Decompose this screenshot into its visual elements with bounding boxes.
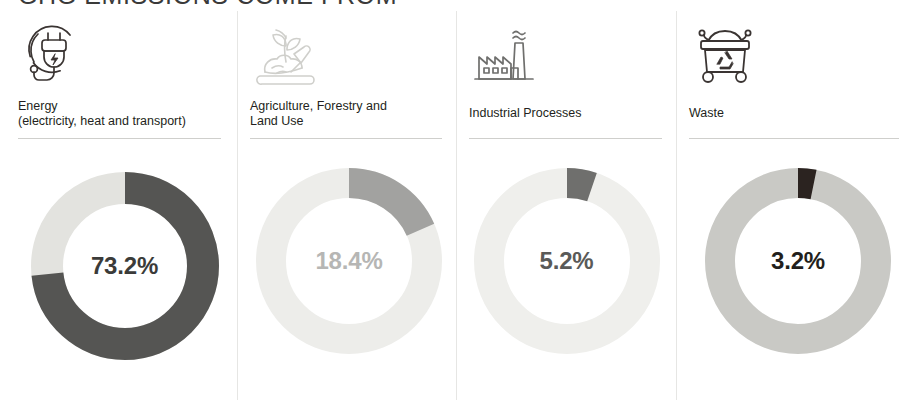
label-line-1: Agriculture, Forestry and [250, 99, 446, 114]
column-divider [250, 138, 442, 139]
emissions-column-agriculture: Agriculture, Forestry and Land Use 18.4% [237, 11, 456, 400]
label-line-2: Land Use [250, 114, 446, 129]
donut-chart-industrial: 5.2% [457, 163, 676, 359]
emissions-column-waste: Waste 3.2% [676, 11, 911, 400]
seedling-trowel-icon [250, 24, 322, 90]
emissions-column-group: Energy (electricity, heat and transport)… [0, 11, 911, 400]
emissions-column-label: Industrial Processes [469, 106, 666, 121]
donut-value-label: 73.2% [27, 168, 223, 364]
section-heading: GHG EMISSIONS COME FROM [0, 0, 911, 11]
emissions-column-label: Waste [689, 106, 901, 121]
donut-value-label: 5.2% [469, 163, 665, 359]
column-divider [18, 138, 221, 139]
emissions-column-industrial: Industrial Processes 5.2% [456, 11, 676, 400]
electric-plug-icon [18, 22, 90, 88]
column-divider [469, 138, 662, 139]
donut-chart-waste: 3.2% [677, 163, 911, 359]
emissions-column-label: Energy (electricity, heat and transport) [18, 99, 227, 129]
label-line-2: (electricity, heat and transport) [18, 114, 227, 129]
donut-chart-energy: 73.2% [0, 168, 243, 364]
donut-chart-agriculture: 18.4% [238, 163, 458, 359]
label-line-1: Waste [689, 106, 901, 121]
donut-value-label: 18.4% [251, 163, 447, 359]
label-line-1: Energy [18, 99, 227, 114]
donut-value-label: 3.2% [700, 163, 896, 359]
column-divider [689, 138, 899, 139]
emissions-column-energy: Energy (electricity, heat and transport)… [0, 11, 237, 400]
factory-icon [469, 27, 541, 93]
recycle-bin-icon [689, 22, 761, 88]
emissions-column-label: Agriculture, Forestry and Land Use [250, 99, 446, 129]
label-line-1: Industrial Processes [469, 106, 666, 121]
section-heading-text: GHG EMISSIONS COME FROM [18, 0, 397, 10]
